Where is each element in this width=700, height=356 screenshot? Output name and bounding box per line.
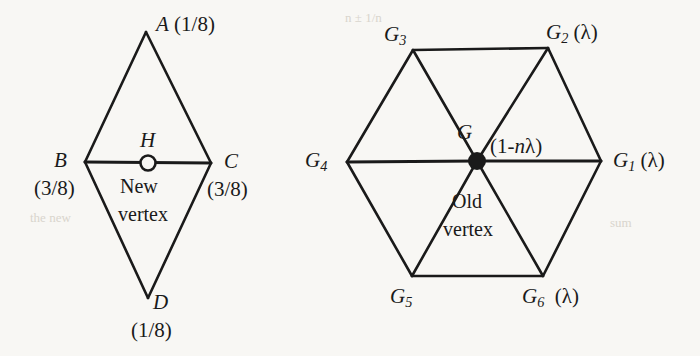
vertex-label-G3-text: G: [384, 22, 399, 46]
vertex-label-G4: G4: [305, 150, 327, 173]
vertex-weight-C-text: (3/8): [207, 177, 248, 201]
vertex-label-G4-text: G: [305, 148, 320, 172]
vertex-weight-G6: (λ): [555, 284, 579, 308]
vertex-label-A: A (1/8): [156, 14, 215, 35]
edge-G2-G3: [413, 48, 548, 50]
vertex-label-B: B: [54, 150, 67, 171]
old-vertex-caption-line1: Old: [452, 191, 482, 211]
subdivision-masks-figure: [0, 0, 700, 356]
vertex-weight-C: (3/8): [207, 179, 248, 200]
vertex-weight-B: (3/8): [34, 178, 75, 199]
new-vertex-caption-line1: New: [120, 176, 158, 196]
center-weight-G: (1-nλ): [490, 136, 542, 157]
vertex-weight-D-text: (1/8): [131, 318, 172, 342]
vertex-label-G5-text: G: [390, 284, 405, 308]
vertex-label-G5: G5: [390, 286, 412, 309]
new-vertex-caption-line2: vertex: [118, 204, 168, 224]
edge-G6-G1: [543, 161, 601, 276]
new-vertex-caption-line2-text: vertex: [118, 203, 168, 225]
vertex-weight-G1: (λ): [641, 148, 665, 172]
vertex-label-G2-text: G: [546, 20, 561, 44]
scan-artifact: sum: [610, 215, 632, 231]
spoke-G-G4: [347, 161, 477, 162]
scan-artifact: n ± 1/n: [345, 10, 382, 26]
old-vertex-marker: [468, 152, 486, 170]
center-label-G-text: G: [457, 120, 472, 144]
edge-G1-G2: [548, 48, 601, 161]
vertex-label-G2: G2 (λ): [546, 22, 598, 45]
old-vertex-caption-line2-text: vertex: [443, 218, 493, 240]
vertex-weight-D: (1/8): [131, 320, 172, 341]
old-vertex-caption-line2: vertex: [443, 219, 493, 239]
vertex-label-B-text: B: [54, 148, 67, 172]
vertex-label-G4-sub: 4: [320, 158, 327, 174]
vertex-weight-B-text: (3/8): [34, 176, 75, 200]
center-weight-italic-n: n: [515, 134, 526, 158]
center-weight-prefix: (1-: [490, 134, 515, 158]
new-vertex-marker: [141, 156, 156, 171]
vertex-label-G1: G1 (λ): [613, 150, 665, 173]
vertex-label-C: C: [224, 151, 238, 172]
scan-artifact: the new: [30, 210, 71, 226]
vertex-weight-A: (1/8): [174, 12, 215, 36]
old-vertex-caption-line1-text: Old: [452, 190, 482, 212]
center-label-G: G: [457, 122, 472, 143]
vertex-label-G6: G6 (λ): [522, 286, 579, 309]
vertex-label-G6-text: G: [522, 284, 537, 308]
vertex-label-G3: G3: [384, 24, 406, 47]
vertex-label-D-text: D: [153, 290, 168, 314]
edge-A-B: [85, 32, 146, 162]
center-label-H: H: [140, 130, 155, 151]
edge-A-C: [146, 32, 211, 163]
new-vertex-caption-line1-text: New: [120, 175, 158, 197]
vertex-label-G5-sub: 5: [405, 294, 412, 310]
vertex-label-A-text: A: [156, 12, 169, 36]
vertex-label-C-text: C: [224, 149, 238, 173]
edge-G4-G5: [347, 162, 412, 276]
vertex-label-G1-text: G: [613, 148, 628, 172]
spoke-G-G3: [413, 50, 477, 161]
edge-G3-G4: [347, 50, 413, 162]
vertex-label-D: D: [153, 292, 168, 313]
vertex-weight-G2: (λ): [574, 20, 598, 44]
center-label-H-text: H: [140, 128, 155, 152]
center-weight-suffix: λ): [525, 134, 542, 158]
vertex-label-G3-sub: 3: [399, 32, 406, 48]
